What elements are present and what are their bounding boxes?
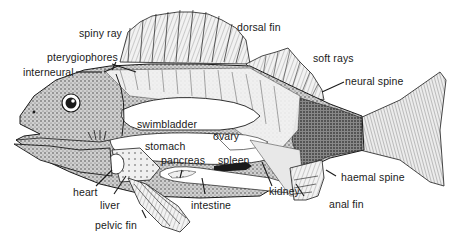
label-pterygiophores: pterygiophores [47, 52, 118, 63]
label-pancreas: pancreas [161, 155, 205, 166]
label-soft-rays: soft rays [313, 53, 354, 64]
spiny-dorsal-fin [120, 10, 250, 64]
lower-jaw [14, 144, 112, 176]
label-interneural: interneural [23, 67, 74, 78]
label-intestine: intestine [191, 200, 231, 211]
nostril [33, 111, 36, 114]
label-neural-spine: neural spine [345, 76, 403, 87]
label-heart: heart [73, 187, 97, 198]
fish-anatomy-diagram: spiny ray dorsal fin pterygiophores inte… [0, 0, 458, 248]
caudal-peduncle [292, 98, 362, 168]
label-spiny-ray: spiny ray [79, 28, 122, 39]
eye [62, 94, 80, 112]
label-spleen: spleen [218, 155, 250, 166]
label-dorsal-fin: dorsal fin [237, 22, 281, 33]
label-liver: liver [100, 200, 120, 211]
label-kidney: kidney [269, 186, 300, 197]
label-haemal-spine: haemal spine [341, 172, 405, 183]
label-anal-fin: anal fin [329, 199, 364, 210]
label-stomach: stomach [145, 141, 185, 152]
caudal-fin [360, 72, 446, 186]
label-pelvic-fin: pelvic fin [95, 220, 137, 231]
label-swimbladder: swimbladder [137, 119, 197, 130]
label-ovary: ovary [213, 131, 239, 142]
